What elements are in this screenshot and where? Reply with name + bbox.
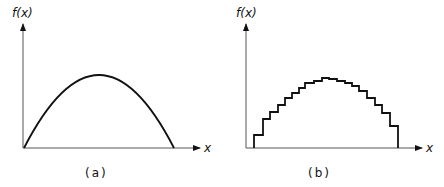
y-axis-label-b: f(x) xyxy=(236,6,257,20)
figure: f(x) x (a) f(x) x (b) xyxy=(0,0,444,187)
y-axis-label-a: f(x) xyxy=(12,6,33,20)
x-axis-label-b: x xyxy=(425,141,434,155)
step-function xyxy=(254,78,398,148)
x-axis-label-a: x xyxy=(203,141,212,155)
panel-b: f(x) x (b) xyxy=(236,6,434,180)
caption-b: (b) xyxy=(308,166,331,180)
parabola-curve xyxy=(24,75,174,148)
panel-a: f(x) x (a) xyxy=(12,6,212,180)
caption-a: (a) xyxy=(85,166,108,180)
